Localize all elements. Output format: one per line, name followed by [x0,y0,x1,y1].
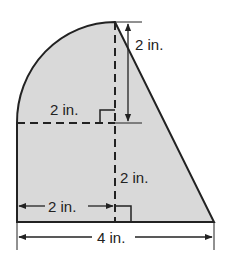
label-top-right-height: 2 in. [135,36,163,53]
label-lower-height: 2 in. [120,169,148,186]
label-bottom-left-width: 2 in. [48,198,76,215]
label-radius-horizontal: 2 in. [50,101,78,118]
label-total-width: 4 in. [97,229,125,246]
composite-figure-diagram: 2 in. 2 in. 2 in. 2 in. 4 in. [0,0,229,267]
